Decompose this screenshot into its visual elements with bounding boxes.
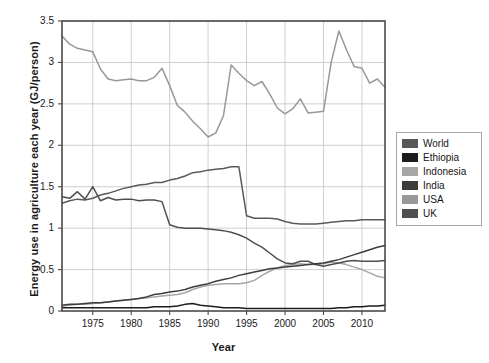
x-tick-label: 1990 (186, 318, 230, 329)
y-tick-label: 0.5 (0, 264, 54, 275)
series-line-ethiopia (62, 304, 385, 309)
legend-item-ethiopia[interactable]: Ethiopia (402, 151, 477, 164)
x-tick-label: 2000 (263, 318, 307, 329)
legend-swatch-icon (402, 153, 418, 162)
legend-swatch-icon (402, 209, 418, 218)
y-tick-label: 1.5 (0, 181, 54, 192)
chart-figure: Energy use in agriculture each year (GJ/… (0, 0, 489, 363)
y-tick-label: 0 (0, 305, 54, 316)
x-axis-label: Year (212, 341, 236, 353)
legend-swatch-icon (402, 167, 418, 176)
plot-frame (62, 21, 385, 311)
y-tick-label: 3 (0, 56, 54, 67)
x-tick-label: 1980 (109, 318, 153, 329)
x-tick-label: 1985 (148, 318, 192, 329)
x-tick-label: 1995 (225, 318, 269, 329)
series-line-world (62, 167, 385, 224)
legend-label: Ethiopia (423, 153, 459, 163)
legend-label: USA (423, 195, 444, 205)
legend-item-world[interactable]: World (402, 137, 477, 150)
legend-item-uk[interactable]: UK (402, 207, 477, 220)
legend-item-india[interactable]: India (402, 179, 477, 192)
legend-swatch-icon (402, 139, 418, 148)
x-tick-label: 2010 (340, 318, 384, 329)
x-axis-label-wrapper: Year (62, 337, 385, 355)
legend-label: UK (423, 209, 437, 219)
legend-label: India (423, 181, 445, 191)
legend-swatch-icon (402, 181, 418, 190)
y-tick-label: 1 (0, 222, 54, 233)
x-tick-label: 2005 (301, 318, 345, 329)
series-line-uk (62, 187, 385, 267)
y-tick-label: 3.5 (0, 15, 54, 26)
series-line-indonesia (62, 262, 385, 306)
legend-item-indonesia[interactable]: Indonesia (402, 165, 477, 178)
y-tick-label: 2 (0, 139, 54, 150)
legend-item-usa[interactable]: USA (402, 193, 477, 206)
legend-label: World (423, 139, 449, 149)
legend-swatch-icon (402, 195, 418, 204)
x-tick-label: 1975 (71, 318, 115, 329)
series-line-usa (62, 31, 385, 137)
series-line-india (62, 246, 385, 306)
legend-label: Indonesia (423, 167, 466, 177)
y-tick-label: 2.5 (0, 98, 54, 109)
chart-legend: WorldEthiopiaIndonesiaIndiaUSAUK (396, 132, 482, 226)
